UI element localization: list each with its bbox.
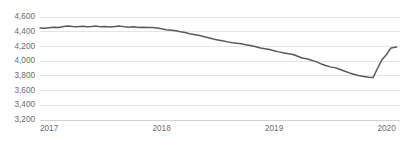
y-tick-label: 3,800	[15, 71, 36, 80]
y-tick-label: 3,200	[15, 115, 36, 124]
x-tick-label: 2017	[40, 124, 59, 133]
x-tick-label: 2020	[378, 124, 397, 133]
y-tick-label: 4,600	[15, 12, 36, 21]
chart-canvas: 3,2003,4003,6003,8004,0004,2004,4004,600…	[0, 0, 407, 145]
y-axis-tick-labels: 3,2003,4003,6003,8004,0004,2004,4004,600	[15, 12, 36, 124]
y-tick-label: 4,000	[15, 56, 36, 65]
x-tick-label: 2018	[153, 124, 172, 133]
data-line	[40, 26, 397, 78]
x-tick-label: 2019	[265, 124, 284, 133]
y-tick-label: 3,400	[15, 100, 36, 109]
y-tick-label: 4,200	[15, 42, 36, 51]
x-axis-tick-labels: 2017201820192020	[40, 124, 396, 133]
y-tick-label: 3,600	[15, 86, 36, 95]
line-chart: 3,2003,4003,6003,8004,0004,2004,4004,600…	[0, 0, 407, 145]
y-tick-label: 4,400	[15, 27, 36, 36]
gridlines	[40, 17, 400, 120]
data-series-group	[40, 26, 397, 78]
